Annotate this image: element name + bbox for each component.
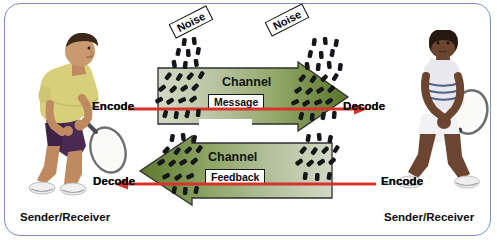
label-encode-bottom: Encode — [381, 175, 423, 187]
label-decode-bottom: Decode — [93, 175, 135, 187]
label-encode-top: Encode — [92, 100, 134, 112]
diagram-canvas: Channel Message Channel Feedback — [0, 0, 497, 240]
noise-specks-left — [150, 36, 230, 216]
label-sender-receiver-left: Sender/Receiver — [20, 211, 110, 223]
noise-specks-right — [282, 34, 362, 214]
noise-label-left: Noise — [169, 5, 214, 38]
noise-label-right: Noise — [265, 3, 310, 36]
label-sender-receiver-right: Sender/Receiver — [384, 211, 474, 223]
